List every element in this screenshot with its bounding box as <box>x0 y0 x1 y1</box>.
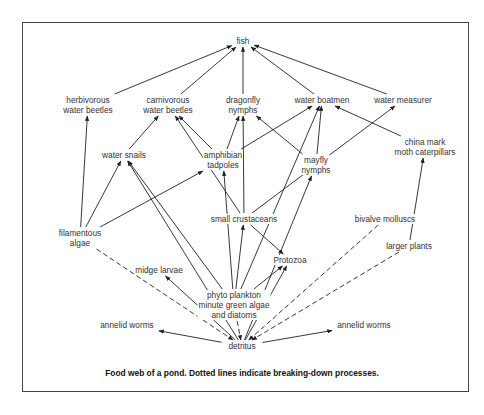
edge-small-crustaceans-to-dragonfly-nymphs <box>243 116 244 213</box>
edge-water-boatmen-to-fish <box>251 47 314 94</box>
edge-water-measurer-to-fish <box>254 45 387 94</box>
node-phyto-plankton: phyto planktonminute green algaeand diat… <box>197 290 270 320</box>
edge-phyto-plankton-to-small-crustaceans <box>236 225 243 289</box>
edge-filamentous-algae-to-amphibian-tadpoles <box>100 171 203 227</box>
node-mayfly-nymphs: mayflynymphs <box>300 155 331 175</box>
edge-water-snails-to-carnivorous-water-beetles <box>129 116 158 149</box>
node-fish: fish <box>236 36 251 46</box>
edge-mayfly-nymphs-to-dragonfly-nymphs <box>256 116 302 154</box>
node-china-mark-moth-caterpillars: china markmoth caterpillars <box>394 137 457 157</box>
caption: Food web of a pond. Dotted lines indicat… <box>105 368 379 378</box>
edge-larger-plants-to-china-mark-moth-caterpillars <box>410 158 423 240</box>
edge-filamentous-algae-to-water-snails <box>86 161 121 227</box>
edge-detritus-to-annelid-worms-right <box>262 330 332 342</box>
node-detritus: detritus <box>227 341 256 351</box>
node-water-measurer: water measurer <box>373 95 433 105</box>
edge-amphibian-tadpoles-to-carnivorous-water-beetles <box>179 116 212 149</box>
edge-carnivorous-water-beetles-to-fish <box>181 47 236 94</box>
edge-amphibian-tadpoles-to-dragonfly-nymphs <box>227 116 239 149</box>
edge-detritus-to-annelid-worms-left <box>159 331 222 342</box>
node-water-boatmen: water boatmen <box>294 95 351 105</box>
node-herbivorous-water-beetles: herbivorouswater beetles <box>62 95 113 115</box>
node-annelid-worms-left: annelid worms <box>99 320 155 330</box>
node-midge-larvae: midge larvae <box>134 265 184 275</box>
node-protozoa: Protozoa <box>272 255 307 265</box>
node-water-snails: water snails <box>101 150 147 160</box>
edge-phyto-plankton-to-protozoa <box>254 266 283 289</box>
edge-filamentous-algae-to-herbivorous-water-beetles <box>81 116 88 227</box>
node-small-crustaceans: small crustaceans <box>210 214 278 224</box>
node-annelid-worms-right: annelid worms <box>336 320 392 330</box>
edge-china-mark-moth-caterpillars-to-water-boatmen <box>335 106 401 136</box>
node-filamentous-algae: filamentousalgae <box>58 228 102 248</box>
node-amphibian-tadpoles: amphibiantadpoles <box>203 150 243 170</box>
edge-phyto-plankton-to-detritus <box>237 321 241 340</box>
node-larger-plants: larger plants <box>385 241 433 251</box>
edge-phyto-plankton-to-amphibian-tadpoles <box>224 171 233 289</box>
edge-small-crustaceans-to-protozoa <box>251 225 284 254</box>
edge-mayfly-nymphs-to-water-boatmen <box>317 106 321 154</box>
node-dragonfly-nymphs: dragonflynymphs <box>225 95 261 115</box>
node-carnivorous-water-beetles: carnivorouswater beetles <box>142 95 193 115</box>
node-bivalve-molluscs: bivalve molluscs <box>354 214 416 224</box>
edge-herbivorous-water-beetles-to-fish <box>115 46 232 94</box>
food-web-arrows <box>0 0 484 415</box>
